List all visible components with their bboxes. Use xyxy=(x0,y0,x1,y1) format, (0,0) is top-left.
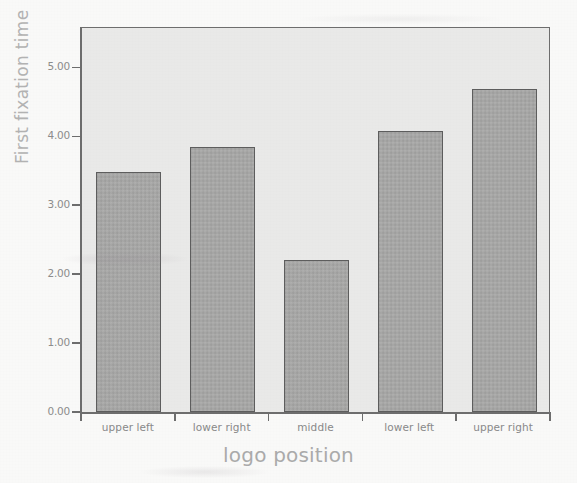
y-tick-label: 0.00 xyxy=(22,405,70,417)
x-tick-label-upper-right: upper right xyxy=(456,421,550,433)
x-tick-mark xyxy=(549,413,551,421)
y-tick-mark xyxy=(72,204,81,206)
y-tick-label: 3.00 xyxy=(22,198,70,210)
bar-upper-left xyxy=(96,172,161,412)
y-axis-title: First fixation time xyxy=(12,0,32,164)
x-tick-mark xyxy=(362,413,364,421)
bar-lower-left xyxy=(378,131,443,412)
x-tick-mark xyxy=(174,413,176,421)
scan-smudge-artifact xyxy=(140,466,270,478)
x-tick-mark xyxy=(455,413,457,421)
bar-chart-figure: 0.001.002.003.004.005.00 First fixation … xyxy=(0,0,577,483)
x-tick-mark xyxy=(80,413,82,421)
y-tick-mark xyxy=(72,273,81,275)
y-tick-label: 1.00 xyxy=(22,336,70,348)
y-tick-label: 2.00 xyxy=(22,267,70,279)
y-axis-line xyxy=(80,27,82,413)
x-tick-mark xyxy=(268,413,270,421)
y-tick-mark xyxy=(72,342,81,344)
bar-series xyxy=(82,28,549,412)
x-axis-line xyxy=(81,412,551,414)
x-axis-title: logo position xyxy=(0,443,577,467)
x-tick-label-lower-left: lower left xyxy=(362,421,456,433)
y-tick-mark xyxy=(72,136,81,138)
bar-lower-right xyxy=(190,147,255,412)
bar-upper-right xyxy=(472,89,537,412)
x-tick-label-upper-left: upper left xyxy=(81,421,175,433)
y-tick-mark xyxy=(72,67,81,69)
scan-smudge-artifact xyxy=(300,14,500,24)
bar-middle xyxy=(284,260,349,412)
x-tick-label-lower-right: lower right xyxy=(175,421,269,433)
x-tick-label-middle: middle xyxy=(269,421,363,433)
plot-area xyxy=(81,27,550,413)
